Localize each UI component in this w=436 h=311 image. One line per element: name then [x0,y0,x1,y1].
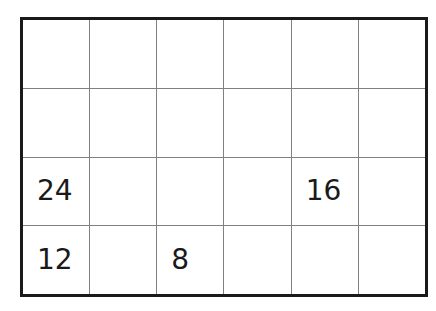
table-row: 12 8 [22,226,427,296]
grid-cell-r3c4[interactable] [224,157,291,226]
grid-cell-r3c1[interactable]: 24 [22,157,90,226]
grid-table: 24 16 12 8 [20,17,428,297]
grid-cell-r2c2[interactable] [90,88,157,157]
grid-cell-r4c2[interactable] [90,226,157,296]
cell-value-r4c1: 12 [23,246,89,274]
grid-cell-r4c3[interactable]: 8 [157,226,224,296]
grid-cell-r3c5[interactable]: 16 [291,157,358,226]
grid-cell-r3c2[interactable] [90,157,157,226]
grid-cell-r1c1[interactable] [22,19,90,89]
grid-cell-r1c4[interactable] [224,19,291,89]
table-row: 24 16 [22,157,427,226]
grid-cell-r2c3[interactable] [157,88,224,157]
table-row [22,19,427,89]
grid-figure: 24 16 12 8 [20,17,417,288]
grid-cell-r2c4[interactable] [224,88,291,157]
cell-value-r4c3: 8 [157,246,223,274]
grid-cell-r2c5[interactable] [291,88,358,157]
grid-cell-r4c4[interactable] [224,226,291,296]
grid-cell-r1c3[interactable] [157,19,224,89]
grid-cell-r3c3[interactable] [157,157,224,226]
table-row [22,88,427,157]
grid-cell-r1c5[interactable] [291,19,358,89]
grid-cell-r4c1[interactable]: 12 [22,226,90,296]
cell-value-r3c5: 16 [292,177,358,205]
grid-cell-r1c6[interactable] [358,19,426,89]
grid-cell-r3c6[interactable] [358,157,426,226]
grid-cell-r2c6[interactable] [358,88,426,157]
cell-value-r3c1: 24 [23,177,89,205]
grid-cell-r1c2[interactable] [90,19,157,89]
grid-table-body: 24 16 12 8 [22,19,427,296]
grid-cell-r2c1[interactable] [22,88,90,157]
grid-cell-r4c5[interactable] [291,226,358,296]
grid-cell-r4c6[interactable] [358,226,426,296]
